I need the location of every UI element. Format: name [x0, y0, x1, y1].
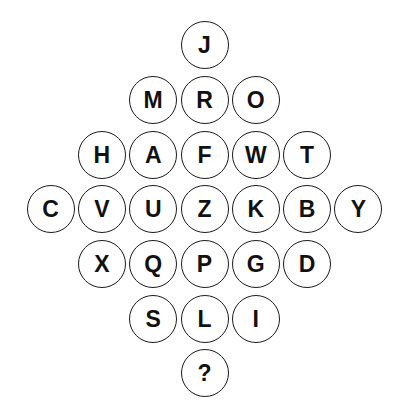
letter-circle: Q: [129, 240, 177, 288]
letter-circle: S: [129, 295, 177, 343]
letter-circle: M: [129, 76, 177, 124]
puzzle-row-5: X Q P G D: [0, 240, 409, 288]
question-mark-circle: ?: [181, 349, 229, 397]
letter-circle: P: [181, 240, 229, 288]
puzzle-row-1: J: [0, 21, 409, 69]
letter-circle: K: [232, 185, 280, 233]
puzzle-row-4: C V U Z K B Y: [0, 185, 409, 233]
letter-circle: W: [232, 131, 280, 179]
letter-circle: O: [232, 76, 280, 124]
puzzle-row-7: ?: [0, 349, 409, 397]
letter-circle: Z: [181, 185, 229, 233]
puzzle-row-2: M R O: [0, 76, 409, 124]
letter-circle: U: [129, 185, 177, 233]
letter-diamond-puzzle: J M R O H A F W T C V U Z K B Y X Q P G …: [0, 0, 409, 418]
letter-circle: V: [78, 185, 126, 233]
letter-circle: C: [27, 185, 75, 233]
letter-circle: X: [78, 240, 126, 288]
letter-circle: L: [181, 295, 229, 343]
puzzle-row-6: S L I: [0, 295, 409, 343]
letter-circle: Y: [334, 185, 382, 233]
letter-circle: G: [232, 240, 280, 288]
letter-circle: I: [232, 295, 280, 343]
letter-circle: J: [181, 21, 229, 69]
letter-circle: A: [129, 131, 177, 179]
puzzle-row-3: H A F W T: [0, 131, 409, 179]
letter-circle: T: [283, 131, 331, 179]
letter-circle: D: [283, 240, 331, 288]
letter-circle: F: [181, 131, 229, 179]
letter-circle: R: [181, 76, 229, 124]
letter-circle: H: [78, 131, 126, 179]
letter-circle: B: [283, 185, 331, 233]
